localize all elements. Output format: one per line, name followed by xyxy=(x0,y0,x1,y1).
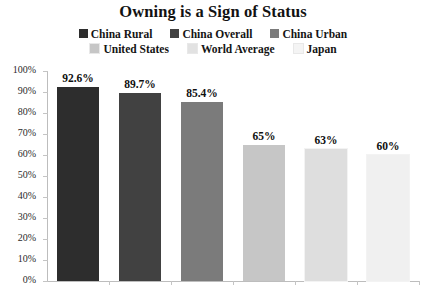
y-axis-tick xyxy=(43,281,48,282)
y-axis-tick-label: 50% xyxy=(0,169,36,180)
legend-item-label: United States xyxy=(103,43,169,55)
legend-swatch-icon xyxy=(79,29,88,38)
y-axis-tick-label: 10% xyxy=(0,253,36,264)
bar-value-label: 89.7% xyxy=(105,78,175,90)
y-axis-tick-label: 90% xyxy=(0,85,36,96)
plot-area: 100%90%80%70%60%50%40%30%20%10%0% 92.6%8… xyxy=(47,71,419,281)
legend-swatch-icon xyxy=(270,29,279,38)
legend-row-bottom: United StatesWorld AverageJapan xyxy=(0,41,426,56)
legend-swatch-icon xyxy=(89,43,100,54)
bar-slot: 89.7% xyxy=(119,71,161,281)
x-axis-tick xyxy=(109,281,110,285)
legend-item-label: China Overall xyxy=(182,28,252,40)
chart-legend: China RuralChina OverallChina Urban Unit… xyxy=(0,26,426,56)
x-axis-tick xyxy=(233,281,234,285)
legend-swatch-icon xyxy=(187,43,198,54)
y-axis-tick-label: 80% xyxy=(0,106,36,117)
y-axis-tick-label: 100% xyxy=(0,64,36,75)
legend-item-label: Japan xyxy=(307,43,337,55)
legend-item-china-urban[interactable]: China Urban xyxy=(270,28,347,40)
chart-container: Owning is a Sign of Status China RuralCh… xyxy=(0,0,426,299)
y-axis-tick-label: 20% xyxy=(0,232,36,243)
legend-item-label: China Urban xyxy=(282,28,347,40)
y-axis-tick-label: 0% xyxy=(0,274,36,285)
bar-slot: 92.6% xyxy=(57,71,99,281)
legend-item-label: China Rural xyxy=(91,28,153,40)
bar-slot: 65% xyxy=(243,71,285,281)
y-axis-tick-label: 70% xyxy=(0,127,36,138)
bar-value-label: 65% xyxy=(229,130,299,142)
legend-swatch-icon xyxy=(170,29,179,38)
y-axis-tick-label: 40% xyxy=(0,190,36,201)
legend-item-world-average[interactable]: World Average xyxy=(187,43,275,55)
bar-slot: 85.4% xyxy=(181,71,223,281)
bar-japan[interactable] xyxy=(367,155,409,281)
legend-item-japan[interactable]: Japan xyxy=(293,43,337,55)
bar-china-rural[interactable] xyxy=(57,87,99,281)
bar-slot: 63% xyxy=(305,71,347,281)
bar-value-label: 92.6% xyxy=(43,72,113,84)
legend-item-china-overall[interactable]: China Overall xyxy=(170,28,252,40)
bar-china-urban[interactable] xyxy=(181,102,223,281)
bar-value-label: 63% xyxy=(291,134,361,146)
y-axis-tick-label: 60% xyxy=(0,148,36,159)
x-axis-tick xyxy=(419,281,420,285)
bar-slot: 60% xyxy=(367,71,409,281)
bar-series: 92.6%89.7%85.4%65%63%60% xyxy=(47,71,419,281)
x-axis-tick xyxy=(357,281,358,285)
bar-china-overall[interactable] xyxy=(119,93,161,281)
bar-world-average[interactable] xyxy=(305,149,347,281)
x-axis-tick xyxy=(295,281,296,285)
bar-value-label: 85.4% xyxy=(167,87,237,99)
chart-title: Owning is a Sign of Status xyxy=(0,2,426,22)
y-axis-tick-label: 30% xyxy=(0,211,36,222)
legend-row-top: China RuralChina OverallChina Urban xyxy=(0,26,426,41)
bar-value-label: 60% xyxy=(353,140,423,152)
legend-swatch-icon xyxy=(293,43,304,54)
x-axis-tick xyxy=(171,281,172,285)
legend-item-label: World Average xyxy=(201,43,275,55)
legend-item-china-rural[interactable]: China Rural xyxy=(79,28,153,40)
legend-item-united-states[interactable]: United States xyxy=(89,43,169,55)
bar-united-states[interactable] xyxy=(243,145,285,282)
